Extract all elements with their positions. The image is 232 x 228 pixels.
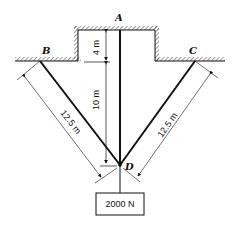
label-c: C bbox=[189, 45, 197, 56]
dim-cd-label: 12.5 m bbox=[155, 111, 179, 139]
label-b: B bbox=[41, 45, 50, 56]
label-d: D bbox=[124, 161, 134, 172]
statics-diagram: A B C D 4 m 10 m 12.5 m 12.5 m 2000 N bbox=[0, 0, 232, 228]
dim-10m-label: 10 m bbox=[91, 90, 101, 110]
label-a: A bbox=[114, 12, 123, 23]
load-label: 2000 N bbox=[105, 199, 134, 209]
dim-4m-label: 4 m bbox=[91, 40, 101, 55]
cable-cd bbox=[120, 61, 195, 165]
joint-d bbox=[118, 163, 122, 167]
